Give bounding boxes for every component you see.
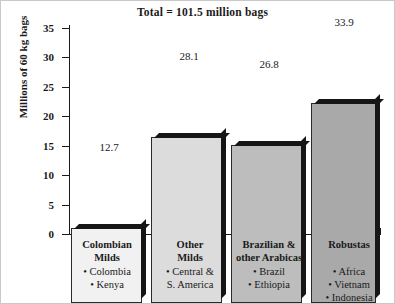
category-item: • Colombia <box>63 265 151 278</box>
category-item: • Central & <box>146 265 234 278</box>
bar-bevel-top <box>154 133 230 138</box>
y-tick-mark <box>62 205 70 206</box>
bar-value-brazilian-other-arabicas: 26.8 <box>231 58 307 70</box>
bar-bevel-top <box>74 224 150 229</box>
y-tick-mark <box>62 28 70 29</box>
category-name: Brazilian & <box>223 239 315 252</box>
chart-figure: Total = 101.5 million bags Millions of 6… <box>0 0 395 304</box>
category-block-colombian-milds: Colombian Milds • Colombia • Kenya <box>63 239 151 291</box>
y-tick-label-35: 35 <box>14 23 54 34</box>
bar-bevel-top <box>314 99 384 104</box>
category-items: • Central & S. America <box>146 265 234 291</box>
category-name-line2: Milds <box>63 252 151 265</box>
category-item: • Indonesia <box>306 291 392 304</box>
category-block-brazilian-other-arabicas: Brazilian & other Arabicas • Brazil • Et… <box>223 239 315 291</box>
bar-value-colombian-milds: 12.7 <box>71 141 147 153</box>
bar-value-robustas: 33.9 <box>309 16 379 28</box>
category-item: • Ethiopia <box>223 278 315 291</box>
y-tick-mark <box>62 57 70 58</box>
category-name: Robustas <box>306 239 392 252</box>
y-tick-label-0: 0 <box>14 229 54 240</box>
y-tick-label-15: 15 <box>14 141 54 152</box>
category-name-line2: Milds <box>146 252 234 265</box>
x-axis-end-tick <box>380 228 381 235</box>
category-block-robustas: Robustas • Africa • Vietnam • Indonesia <box>306 239 392 304</box>
category-items: • Colombia • Kenya <box>63 265 151 291</box>
y-tick-label-25: 25 <box>14 82 54 93</box>
bar-bevel-top <box>234 141 310 146</box>
y-tick-mark <box>62 146 70 147</box>
y-tick-mark <box>62 87 70 88</box>
y-tick-mark <box>62 234 70 235</box>
category-block-other-milds: Other Milds • Central & S. America <box>146 239 234 291</box>
category-name-line2: other Arabicas <box>223 252 315 265</box>
y-tick-mark <box>62 116 70 117</box>
y-tick-label-30: 30 <box>14 52 54 63</box>
category-name: Other <box>146 239 234 252</box>
bar-value-other-milds: 28.1 <box>151 50 227 62</box>
category-item: • Vietnam <box>306 278 392 291</box>
category-items: • Africa • Vietnam • Indonesia <box>306 265 392 304</box>
y-tick-label-10: 10 <box>14 170 54 181</box>
y-tick-label-20: 20 <box>14 111 54 122</box>
y-tick-label-5: 5 <box>14 200 54 211</box>
category-items: • Brazil • Ethiopia <box>223 265 315 291</box>
category-item: S. America <box>146 278 234 291</box>
category-name: Colombian <box>63 239 151 252</box>
category-item: • Brazil <box>223 265 315 278</box>
category-item: • Africa <box>306 265 392 278</box>
category-item: • Kenya <box>63 278 151 291</box>
y-tick-mark <box>62 175 70 176</box>
